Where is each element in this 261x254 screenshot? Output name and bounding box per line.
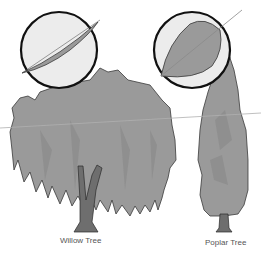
poplar-tree-label: Poplar Tree: [205, 238, 246, 247]
willow-tree: [10, 68, 176, 232]
willow-tree-label: Willow Tree: [60, 236, 101, 245]
willow-leaf-magnifier: [21, 12, 100, 88]
poplar-trunk: [216, 214, 232, 232]
tree-illustration: [0, 0, 261, 254]
